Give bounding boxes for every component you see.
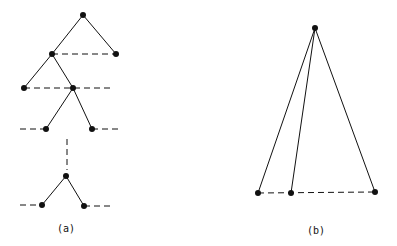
tree-node — [255, 190, 261, 196]
dashed-line — [258, 192, 375, 193]
tree-edge — [66, 176, 84, 206]
tree-edge — [73, 88, 92, 129]
tree-node — [49, 51, 55, 57]
tree-edge — [24, 54, 52, 88]
tree-edge — [83, 15, 116, 54]
tree-node — [70, 85, 76, 91]
label-a: (a) — [57, 223, 75, 234]
tree-edge — [315, 28, 375, 192]
tree-edge — [52, 54, 73, 88]
tree-node — [372, 189, 378, 195]
tree-edge — [291, 28, 315, 193]
tree-node — [113, 51, 119, 57]
tree-diagrams — [0, 0, 397, 246]
tree-node — [288, 190, 294, 196]
tree-node — [89, 126, 95, 132]
tree-node — [312, 25, 318, 31]
tree-node — [81, 203, 87, 209]
tree-node — [80, 12, 86, 18]
diagram-canvas: (a) (b) — [0, 0, 397, 246]
tree-edge — [46, 88, 73, 129]
tree-node — [39, 202, 45, 208]
tree-edge — [42, 176, 66, 205]
tree-node — [63, 173, 69, 179]
label-b: (b) — [307, 225, 325, 236]
tree-node — [21, 85, 27, 91]
tree-edge — [258, 28, 315, 193]
tree-node — [43, 126, 49, 132]
tree-edge — [52, 15, 83, 54]
